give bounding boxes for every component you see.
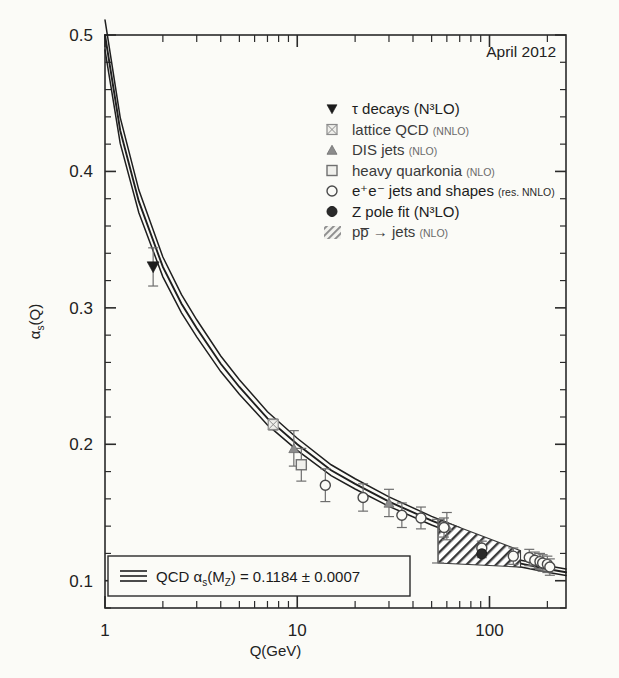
filled-circle-icon bbox=[327, 207, 337, 217]
x-tick-label: 10 bbox=[288, 621, 307, 640]
y-tick-label: 0.3 bbox=[69, 299, 93, 318]
crossed-square-icon bbox=[327, 125, 337, 135]
filled-square-icon bbox=[327, 166, 337, 176]
x-axis-title-text: Q(GeV) bbox=[250, 642, 302, 659]
open-circle-icon bbox=[327, 186, 337, 196]
date-label: April 2012 bbox=[486, 43, 556, 60]
world-average-box: QCD αs(MZ) = 0.1184 ± 0.0007 bbox=[108, 556, 410, 596]
legend-label: Z pole fit (N³LO) bbox=[352, 203, 460, 220]
y-tick-label: 0.5 bbox=[69, 26, 93, 45]
x-tick-label: 100 bbox=[475, 621, 503, 640]
legend-label: τ decays (N³LO) bbox=[352, 100, 460, 117]
alpha-s-running-figure: 0.10.20.30.40.5αs(Q)110100Q(GeV)April 20… bbox=[0, 0, 619, 678]
hatched-band-icon bbox=[324, 226, 341, 239]
y-tick-label: 0.2 bbox=[69, 435, 93, 454]
x-tick-label: 1 bbox=[100, 621, 109, 640]
y-tick-label: 0.4 bbox=[69, 162, 93, 181]
series-crossed-square bbox=[268, 419, 278, 430]
series-filled-circle bbox=[477, 549, 487, 559]
chart-canvas: 0.10.20.30.40.5αs(Q)110100Q(GeV)April 20… bbox=[0, 0, 619, 678]
y-tick-label: 0.1 bbox=[69, 572, 93, 591]
